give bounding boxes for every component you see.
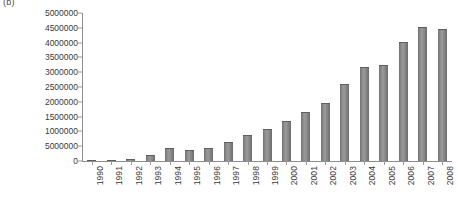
x-axis-tick-label: 2000 — [290, 166, 299, 185]
x-axis-tick-label: 2002 — [329, 166, 338, 185]
y-axis-tick-mark — [78, 27, 82, 28]
bar-1997 — [224, 142, 233, 161]
y-axis-tick-mark — [78, 72, 82, 73]
y-axis-tick-mark — [78, 101, 82, 102]
y-axis-tick-mark — [78, 146, 82, 147]
bar-2007 — [418, 27, 427, 161]
y-axis-tick-mark — [78, 57, 82, 58]
x-axis-tick-mark — [325, 161, 326, 165]
x-axis-tick-mark — [189, 161, 190, 165]
y-axis-tick-label: 3500000 — [45, 53, 78, 62]
x-axis-tick-mark — [384, 161, 385, 165]
x-axis-tick-mark — [442, 161, 443, 165]
x-axis-tick-mark — [170, 161, 171, 165]
x-axis-tick-mark — [209, 161, 210, 165]
x-axis-tick-mark — [228, 161, 229, 165]
bar-1995 — [185, 150, 194, 161]
x-axis-tick-mark — [92, 161, 93, 165]
x-axis-tick-label: 1992 — [135, 166, 144, 185]
x-axis-tick-label: 1994 — [174, 166, 183, 185]
x-axis-tick-label: 2006 — [407, 166, 416, 185]
x-axis-tick-label: 1997 — [232, 166, 241, 185]
y-axis-tick-mark — [78, 131, 82, 132]
x-axis-tick-label: 1990 — [96, 166, 105, 185]
y-axis-tick-mark — [78, 87, 82, 88]
plot-area — [82, 13, 452, 161]
bar-2002 — [321, 103, 330, 161]
bar-2005 — [379, 65, 388, 161]
x-axis-tick-label: 1999 — [271, 166, 280, 185]
x-axis-tick-label: 2001 — [310, 166, 319, 185]
x-axis-tick-label: 2007 — [427, 166, 436, 185]
x-axis-tick-label: 2004 — [368, 166, 377, 185]
y-axis-tick-mark — [78, 161, 82, 162]
x-axis-tick-mark — [267, 161, 268, 165]
x-axis-tick-mark — [150, 161, 151, 165]
y-axis-tick-mark — [78, 13, 82, 14]
x-axis-tick-label: 1993 — [154, 166, 163, 185]
bar-1994 — [165, 148, 174, 161]
bar-1999 — [263, 129, 272, 161]
y-axis-tick-label: 2500000 — [45, 83, 78, 92]
bar-2008 — [438, 29, 447, 161]
x-axis-tick-mark — [286, 161, 287, 165]
bar-2001 — [301, 112, 310, 161]
x-axis-tick-mark — [364, 161, 365, 165]
x-axis-tick-label: 2008 — [446, 166, 455, 185]
y-axis-tick-label: 4000000 — [45, 38, 78, 47]
x-axis-tick-mark — [345, 161, 346, 165]
y-axis-tick-label: 3000000 — [45, 68, 78, 77]
bar-2000 — [282, 121, 291, 161]
y-axis-labels: 5000000450000040000003500000300000025000… — [0, 0, 78, 203]
x-axis-tick-label: 1995 — [193, 166, 202, 185]
y-axis-tick-mark — [78, 116, 82, 117]
x-axis-tick-mark — [131, 161, 132, 165]
bar-2003 — [340, 84, 349, 161]
y-axis-tick-mark — [78, 42, 82, 43]
bar-2006 — [399, 42, 408, 161]
x-axis-tick-label: 1996 — [213, 166, 222, 185]
figure-panel-b: (b) 500000045000004000000350000030000002… — [0, 0, 458, 203]
x-axis-tick-label: 1998 — [252, 166, 261, 185]
bar-2004 — [360, 67, 369, 161]
x-axis-tick-label: 2003 — [349, 166, 358, 185]
x-axis-tick-mark — [111, 161, 112, 165]
y-axis-tick-label: 2000000 — [45, 98, 78, 107]
x-axis-tick-label: 1991 — [115, 166, 124, 185]
y-axis-tick-label: 1500000 — [45, 112, 78, 121]
x-axis-tick-mark — [403, 161, 404, 165]
bar-1996 — [204, 148, 213, 161]
y-axis-tick-label: 5000000 — [45, 142, 78, 151]
x-axis-tick-mark — [248, 161, 249, 165]
bar-1998 — [243, 135, 252, 161]
y-axis-tick-label: 5000000 — [45, 9, 78, 18]
y-axis-tick-label: 4500000 — [45, 24, 78, 33]
y-axis-tick-label: 1000000 — [45, 127, 78, 136]
x-axis-tick-label: 2005 — [388, 166, 397, 185]
x-axis-tick-mark — [423, 161, 424, 165]
x-axis-tick-mark — [306, 161, 307, 165]
